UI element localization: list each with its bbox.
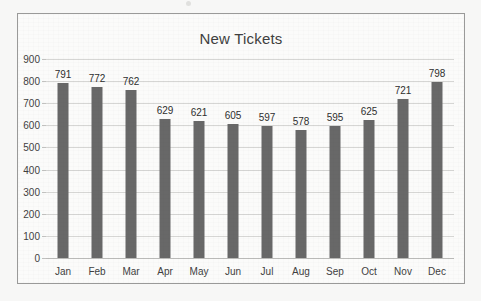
y-axis-tick-label: 100 xyxy=(23,230,40,241)
bar-value-label: 595 xyxy=(327,112,344,123)
x-axis-tick-label: Dec xyxy=(428,266,446,277)
plot-area: 9008007006005004003002001000 791Jan772Fe… xyxy=(46,59,454,258)
bar[interactable] xyxy=(364,120,375,258)
bar[interactable] xyxy=(330,126,341,258)
y-axis-tick-label: 900 xyxy=(23,54,40,65)
y-axis-tick-label: 300 xyxy=(23,186,40,197)
bar-group: 629Apr xyxy=(148,59,182,258)
y-axis-tick-label: 600 xyxy=(23,120,40,131)
y-axis-tick-label: 500 xyxy=(23,142,40,153)
y-axis-tick-label: 700 xyxy=(23,98,40,109)
bar[interactable] xyxy=(194,121,205,258)
y-axis-tick-label: 0 xyxy=(34,253,40,264)
bar-group: 621May xyxy=(182,59,216,258)
x-axis-tick-label: May xyxy=(190,266,209,277)
y-axis-tick-label: 200 xyxy=(23,208,40,219)
paper-artifact-speck xyxy=(186,1,191,6)
bar[interactable] xyxy=(432,82,443,258)
bar-group: 772Feb xyxy=(80,59,114,258)
bar-value-label: 798 xyxy=(429,68,446,79)
bar[interactable] xyxy=(262,126,273,258)
x-axis-tick-label: Apr xyxy=(157,266,173,277)
bar[interactable] xyxy=(58,83,69,258)
bar[interactable] xyxy=(92,87,103,258)
y-axis-tick-mark xyxy=(42,258,46,259)
bar-group: 578Aug xyxy=(284,59,318,258)
bar[interactable] xyxy=(160,119,171,258)
bar[interactable] xyxy=(296,130,307,258)
bar-value-label: 578 xyxy=(293,116,310,127)
y-axis-tick-label: 400 xyxy=(23,164,40,175)
x-axis-tick-label: Jul xyxy=(261,266,274,277)
bar-value-label: 605 xyxy=(225,110,242,121)
bar-group: 605Jun xyxy=(216,59,250,258)
x-axis-tick-label: Feb xyxy=(88,266,105,277)
bar-value-label: 721 xyxy=(395,85,412,96)
bar[interactable] xyxy=(228,124,239,258)
bar[interactable] xyxy=(398,99,409,258)
bar-value-label: 625 xyxy=(361,106,378,117)
bar-group: 721Nov xyxy=(386,59,420,258)
x-axis-tick-label: Jun xyxy=(225,266,241,277)
chart-title: New Tickets xyxy=(18,30,464,47)
bar-group: 791Jan xyxy=(46,59,80,258)
bar[interactable] xyxy=(126,90,137,258)
x-axis-tick-label: Sep xyxy=(326,266,344,277)
bar-value-label: 629 xyxy=(157,105,174,116)
bar-group: 595Sep xyxy=(318,59,352,258)
x-axis-tick-label: Aug xyxy=(292,266,310,277)
x-axis-tick-label: Jan xyxy=(55,266,71,277)
bar-value-label: 772 xyxy=(89,73,106,84)
x-axis-tick-label: Mar xyxy=(122,266,139,277)
bar-group: 597Jul xyxy=(250,59,284,258)
bar-value-label: 621 xyxy=(191,107,208,118)
y-axis-tick-label: 800 xyxy=(23,76,40,87)
bar-group: 762Mar xyxy=(114,59,148,258)
gridline xyxy=(46,258,454,259)
x-axis-tick-label: Nov xyxy=(394,266,412,277)
chart-container: New Tickets 9008007006005004003002001000… xyxy=(17,13,465,284)
bar-value-label: 762 xyxy=(123,76,140,87)
bar-group: 625Oct xyxy=(352,59,386,258)
bar-value-label: 597 xyxy=(259,112,276,123)
bar-group: 798Dec xyxy=(420,59,454,258)
bar-value-label: 791 xyxy=(55,69,72,80)
x-axis-tick-label: Oct xyxy=(361,266,377,277)
bar-series: 791Jan772Feb762Mar629Apr621May605Jun597J… xyxy=(46,59,454,258)
